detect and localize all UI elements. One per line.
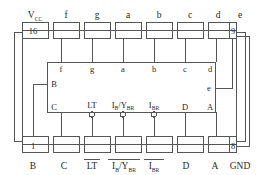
bottom-label-IBYBR: IB/YBR [112, 161, 136, 173]
bubble-LT-icon [89, 112, 94, 117]
top-label-g: g [95, 10, 100, 20]
inner-label-d: d [208, 64, 213, 74]
top-outside-labels: VCC f g a b c d e [28, 10, 242, 22]
top-label-d: d [216, 10, 221, 20]
bubble-IBR-icon [151, 112, 156, 117]
inversion-bubbles [89, 112, 156, 117]
inner-label-B: B [51, 79, 57, 89]
inner-label-A: A [207, 102, 214, 112]
inner-label-D: D [182, 102, 188, 112]
bottom-label-A: A [212, 161, 219, 171]
line-pin1-B [33, 84, 47, 136]
bottom-connection-lines [33, 84, 216, 136]
top-label-b: b [157, 10, 162, 20]
pin-number-16: 16 [29, 26, 38, 36]
inner-side-labels: B e [51, 79, 211, 93]
top-label-a: a [126, 10, 131, 20]
inner-label-IBYBR: IB/YBR [112, 100, 135, 111]
bubble-IBYBR-icon [120, 112, 125, 117]
top-label-c: c [188, 10, 192, 20]
pin-numbers: 16 9 1 8 [29, 26, 235, 151]
bottom-label-LT: LT [87, 161, 98, 171]
line-pin9-e [215, 38, 232, 88]
inner-top-labels: f g a b c d [60, 64, 213, 74]
inner-label-f: f [60, 64, 63, 74]
bottom-label-GND: GND [230, 161, 251, 171]
inner-label-C: C [51, 102, 57, 112]
pin-number-8: 8 [231, 141, 235, 151]
inner-label-a: a [121, 64, 125, 74]
inner-label-IBR: IBR [149, 100, 160, 111]
ic-pinout-diagram: VCC f g a b c d e 16 9 1 8 f g a b c d B… [0, 0, 258, 175]
inner-label-LT: LT [87, 100, 97, 110]
top-label-e: e [238, 10, 242, 20]
bottom-label-B: B [30, 161, 36, 171]
bottom-label-D: D [183, 161, 190, 171]
inner-label-e: e [207, 83, 211, 93]
inner-label-b: b [152, 64, 156, 74]
bottom-outside-labels: B C LT IB/YBR IBR D A GND [30, 161, 251, 173]
pin-number-1: 1 [31, 141, 35, 151]
pin-number-9: 9 [231, 26, 235, 36]
top-connection-lines [61, 38, 232, 88]
top-label-f: f [64, 10, 68, 20]
top-label-vcc: VCC [28, 10, 43, 22]
bottom-label-C: C [61, 161, 67, 171]
inner-label-c: c [183, 64, 187, 74]
pinout-svg: VCC f g a b c d e 16 9 1 8 f g a b c d B… [0, 0, 258, 175]
bottom-label-IBR: IBR [149, 161, 160, 173]
inner-label-g: g [90, 64, 95, 74]
inner-bottom-labels: C LT IB/YBR IBR D A [51, 100, 214, 112]
vcc-gnd-wires [14, 32, 249, 146]
